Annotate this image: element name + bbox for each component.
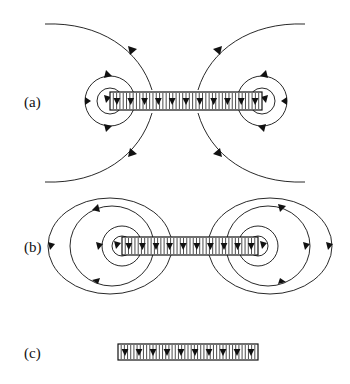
panel-b-flux-tube [122,237,258,255]
panel-c-flux-tube [118,344,258,360]
flux-tube-hatching [125,238,255,254]
figure-container: (a) [0,0,350,384]
panel-a-label: (a) [24,94,41,111]
magnetic-field-diagram: (a) [0,0,350,384]
panel-a-flux-tube [110,92,262,110]
panel-c-label: (c) [24,345,41,362]
panel-b-label: (b) [24,239,42,256]
figure-background [0,0,350,384]
